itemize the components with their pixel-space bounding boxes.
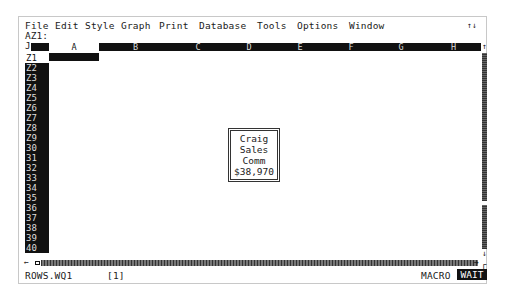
row-header[interactable]: 33 xyxy=(25,173,49,183)
spreadsheet-screen: File Edit Style Graph Print Database Too… xyxy=(18,16,487,284)
vertical-scrollbar[interactable] xyxy=(482,53,487,249)
row-header[interactable]: Z3 xyxy=(25,73,49,83)
row-header[interactable]: Z6 xyxy=(25,103,49,113)
select-all-corner[interactable]: J xyxy=(25,42,30,51)
menu-style[interactable]: Style xyxy=(85,21,115,31)
window-scroll-indicator-icon[interactable]: ↑↓ xyxy=(467,21,477,31)
mode-indicator-wait: WAIT xyxy=(457,269,487,280)
horizontal-scrollbar[interactable] xyxy=(41,260,478,266)
column-header-c[interactable]: C xyxy=(172,43,224,51)
status-window-number: [1] xyxy=(107,271,125,281)
row-header[interactable]: 35 xyxy=(25,193,49,203)
row-header[interactable]: Z2 xyxy=(25,63,49,73)
row-header[interactable]: Z8 xyxy=(25,123,49,133)
vertical-scroll-thumb[interactable] xyxy=(482,201,487,205)
scroll-right-arrow-icon[interactable]: → xyxy=(474,259,479,267)
resize-corner-icon[interactable]: ┌ xyxy=(481,261,486,269)
horizontal-scroll-thumb[interactable] xyxy=(35,261,40,265)
row-header[interactable]: Z9 xyxy=(25,133,49,143)
status-macro: MACRO xyxy=(421,271,451,281)
row-header[interactable]: 37 xyxy=(25,213,49,223)
row-header[interactable]: 36 xyxy=(25,203,49,213)
text-box[interactable]: Craig Sales Comm $38,970 xyxy=(228,128,280,182)
menu-graph[interactable]: Graph xyxy=(121,21,151,31)
text-box-line: $38,970 xyxy=(234,166,274,177)
menu-print[interactable]: Print xyxy=(159,21,189,31)
scroll-down-arrow-icon[interactable]: ↓ xyxy=(482,250,487,258)
row-header[interactable]: Z5 xyxy=(25,93,49,103)
text-box-inner: Craig Sales Comm $38,970 xyxy=(230,130,278,180)
column-header-d[interactable]: D xyxy=(224,43,274,51)
active-cell[interactable] xyxy=(49,53,99,61)
row-header[interactable]: 39 xyxy=(25,233,49,243)
menu-edit[interactable]: Edit xyxy=(55,21,79,31)
scroll-up-arrow-icon[interactable]: ↑ xyxy=(482,43,487,51)
column-header-e[interactable]: E xyxy=(274,43,326,51)
column-header-b[interactable]: B xyxy=(99,43,172,51)
column-header-a[interactable]: A xyxy=(49,43,99,51)
text-box-line: Sales xyxy=(240,144,269,155)
row-header[interactable]: 31 xyxy=(25,153,49,163)
row-header[interactable]: 38 xyxy=(25,223,49,233)
row-header[interactable]: 34 xyxy=(25,183,49,193)
row-header[interactable]: 40 xyxy=(25,243,49,253)
menu-window[interactable]: Window xyxy=(349,21,385,31)
menu-database[interactable]: Database xyxy=(199,21,246,31)
row-header[interactable]: Z4 xyxy=(25,83,49,93)
text-box-line: Craig xyxy=(240,133,269,144)
corner-block xyxy=(31,43,49,51)
column-header-f[interactable]: F xyxy=(326,43,376,51)
menu-tools[interactable]: Tools xyxy=(257,21,287,31)
status-filename: ROWS.WQ1 xyxy=(25,271,72,281)
row-header[interactable]: 30 xyxy=(25,143,49,153)
text-box-line: Comm xyxy=(243,155,266,166)
row-header[interactable]: Z7 xyxy=(25,113,49,123)
row-header[interactable]: 32 xyxy=(25,163,49,173)
row-header[interactable]: Z1 xyxy=(25,53,49,63)
column-header-g[interactable]: G xyxy=(376,43,426,51)
column-header-h[interactable]: H xyxy=(426,43,481,51)
menu-options[interactable]: Options xyxy=(297,21,338,31)
scroll-left-arrow-icon[interactable]: ← xyxy=(24,259,29,267)
cell-reference: AZ1: xyxy=(25,31,48,41)
